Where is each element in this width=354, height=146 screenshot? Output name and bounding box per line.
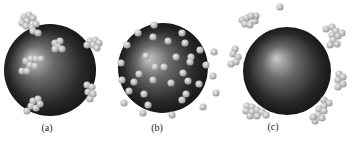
small-particle	[262, 111, 269, 118]
small-particle	[32, 20, 39, 27]
small-particle	[120, 99, 127, 106]
small-particle	[253, 112, 260, 119]
small-particle	[164, 37, 171, 44]
small-particle	[36, 100, 43, 107]
small-particle	[172, 53, 179, 60]
small-particle	[34, 29, 41, 36]
small-particle	[140, 90, 147, 97]
large-sphere	[4, 24, 96, 116]
small-particle	[83, 41, 90, 48]
small-particle	[51, 45, 58, 52]
small-particle	[338, 29, 345, 36]
small-particle	[93, 44, 100, 51]
small-particle	[135, 70, 142, 77]
small-particle	[178, 96, 185, 103]
small-particle	[326, 41, 333, 48]
small-particle	[117, 59, 124, 66]
small-particle	[139, 109, 146, 116]
small-particle	[168, 111, 175, 118]
small-particle	[246, 112, 253, 119]
colloid-adsorption-diagram	[0, 0, 354, 146]
small-particle	[334, 83, 341, 90]
small-particle	[150, 21, 157, 28]
small-particle	[160, 63, 167, 70]
small-particle	[309, 113, 316, 120]
small-particle	[118, 76, 125, 83]
small-particle	[212, 89, 219, 96]
small-particle	[178, 29, 185, 36]
small-particle	[37, 55, 44, 62]
small-particle	[123, 41, 130, 48]
small-particle	[149, 33, 156, 40]
small-particle	[186, 58, 193, 65]
small-particle	[199, 103, 206, 110]
small-particle	[58, 45, 65, 52]
large-sphere	[243, 27, 331, 115]
small-particle	[22, 22, 29, 29]
small-particle	[318, 114, 325, 121]
small-particle	[182, 90, 189, 97]
small-particle	[202, 61, 209, 68]
small-particle	[179, 69, 186, 76]
panel-label-a: (a)	[41, 123, 52, 133]
small-particle	[181, 39, 188, 46]
small-particle	[247, 12, 254, 19]
small-particle	[209, 72, 216, 79]
small-particle	[276, 3, 283, 10]
panel-label-c: (c)	[267, 122, 278, 132]
small-particle	[144, 101, 151, 108]
small-particle	[23, 107, 30, 114]
small-particle	[86, 95, 93, 102]
small-particle	[23, 67, 30, 74]
panel-label-b: (b)	[151, 123, 163, 133]
small-particle	[142, 52, 149, 59]
small-particle	[151, 63, 158, 70]
small-particle	[333, 40, 340, 47]
small-particle	[195, 80, 202, 87]
small-particle	[320, 107, 327, 114]
small-particle	[227, 60, 234, 67]
small-particle	[130, 78, 137, 85]
small-particle	[125, 87, 132, 94]
small-particle	[31, 62, 38, 69]
small-particle	[149, 76, 156, 83]
small-particle	[184, 77, 191, 84]
small-particle	[167, 79, 174, 86]
small-particle	[196, 46, 203, 53]
small-particle	[210, 48, 217, 55]
small-particle	[134, 29, 141, 36]
